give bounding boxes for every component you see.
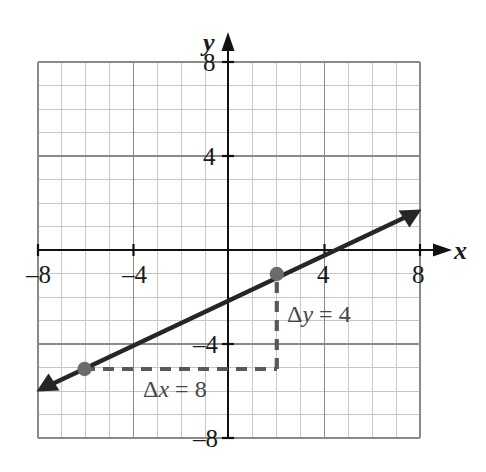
x-tick-label-pos4: 4 <box>317 262 330 287</box>
delta-y-variable: y <box>302 301 313 327</box>
delta-x-value: = 8 <box>175 376 207 402</box>
delta-x-variable: x <box>158 376 169 402</box>
delta-symbol-y: Δ <box>287 301 302 327</box>
y-tick-label-pos8: 8 <box>203 50 216 75</box>
y-tick-label-pos4: 4 <box>203 144 216 169</box>
point-left-neg6-neg5 <box>77 362 91 376</box>
y-tick-label-neg8: –8 <box>193 426 218 451</box>
point-right-2-neg1 <box>270 267 284 281</box>
coordinate-plane <box>0 0 486 472</box>
axes <box>38 32 452 438</box>
delta-x-annotation: Δx = 8 <box>143 377 207 401</box>
y-axis-arrowhead <box>222 32 235 51</box>
x-axis-label: x <box>454 238 467 264</box>
delta-symbol-x: Δ <box>143 376 158 402</box>
graph-figure: x y –8 –4 4 8 8 4 –4 –8 Δx = 8 Δy = 4 <box>0 0 486 472</box>
x-tick-label-pos8: 8 <box>412 262 425 287</box>
delta-y-value: = 4 <box>319 301 351 327</box>
y-tick-label-neg4: –4 <box>193 332 218 357</box>
delta-y-annotation: Δy = 4 <box>287 302 351 326</box>
x-tick-label-neg8: –8 <box>26 262 51 287</box>
x-tick-label-neg4: –4 <box>122 262 147 287</box>
x-axis-arrowhead <box>433 244 452 257</box>
